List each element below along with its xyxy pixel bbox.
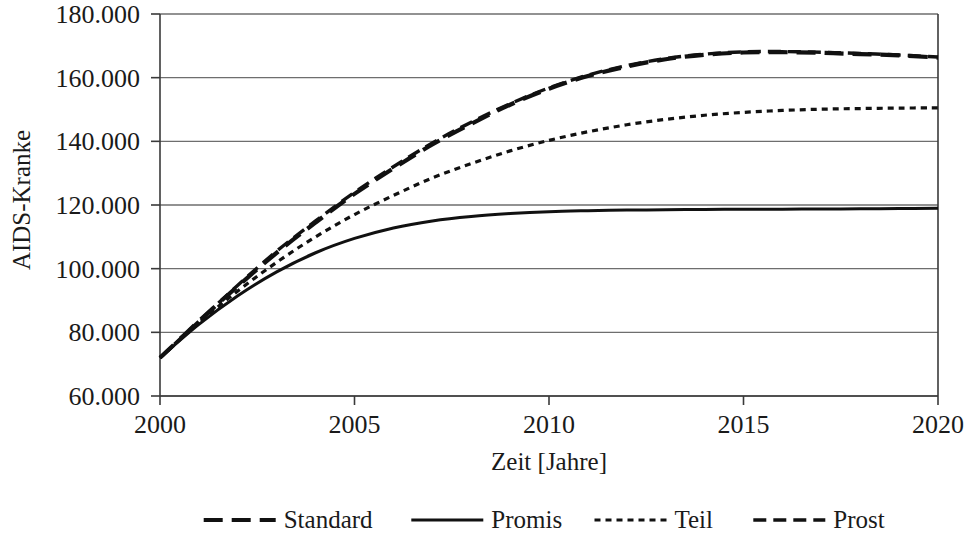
y-tick-label: 160.000	[56, 64, 141, 93]
x-tick-label: 2010	[523, 410, 575, 439]
y-tick-label: 120.000	[56, 191, 141, 220]
y-tick-label: 80.000	[69, 318, 141, 347]
x-axis-title: Zeit [Jahre]	[491, 448, 607, 475]
legend-label-promis: Promis	[491, 506, 562, 533]
x-axis-tick-labels: 20002005201020152020	[134, 410, 964, 439]
y-tick-label: 180.000	[56, 0, 141, 29]
x-tick-label: 2015	[718, 410, 770, 439]
series-line-promis	[160, 208, 938, 358]
y-tick-label: 140.000	[56, 127, 141, 156]
legend-label-prost: Prost	[833, 506, 884, 533]
y-axis-title: AIDS-Kranke	[8, 130, 35, 270]
chart-container: 60.00080.000100.000120.000140.000160.000…	[0, 0, 966, 545]
x-tick-label: 2000	[134, 410, 186, 439]
series-line-teil	[160, 108, 938, 358]
line-chart: 60.00080.000100.000120.000140.000160.000…	[0, 0, 966, 545]
legend-label-standard: Standard	[284, 506, 373, 533]
x-tick-label: 2005	[329, 410, 381, 439]
legend-label-teil: Teil	[675, 506, 714, 533]
y-tick-label: 60.000	[69, 382, 141, 411]
x-tick-label: 2020	[912, 410, 964, 439]
y-tick-label: 100.000	[56, 255, 141, 284]
chart-legend: StandardPromisTeilProst	[204, 506, 885, 533]
y-axis-tick-labels: 60.00080.000100.000120.000140.000160.000…	[56, 0, 141, 411]
gridlines-group	[160, 14, 938, 396]
